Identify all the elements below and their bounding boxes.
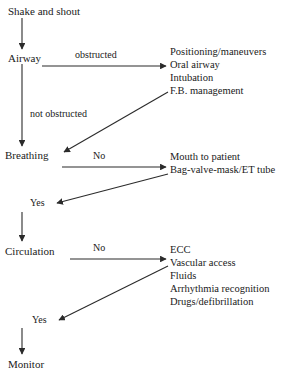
action-item: Arrhythmia recognition	[170, 282, 269, 295]
action-item: Mouth to patient	[170, 150, 275, 163]
edge-label-not-obstructed: not obstructed	[30, 108, 87, 119]
action-item: Fluids	[170, 269, 269, 282]
action-item: ECC	[170, 243, 269, 256]
edge-airway-actions-to-breathing	[64, 92, 168, 152]
node-monitor: Monitor	[8, 358, 44, 370]
flowchart-canvas: Shake and shout Airway Breathing Circula…	[0, 0, 295, 381]
action-list-circulation: ECC Vascular access Fluids Arrhythmia re…	[170, 243, 269, 308]
action-list-breathing: Mouth to patient Bag-valve-mask/ET tube	[170, 150, 275, 176]
edge-label-breathing-yes: Yes	[30, 197, 45, 208]
node-circulation: Circulation	[5, 245, 55, 257]
action-item: F.B. management	[170, 84, 266, 97]
edge-label-breathing-no: No	[93, 150, 105, 161]
edge-label-circulation-no: No	[93, 242, 105, 253]
action-item: Positioning/maneuvers	[170, 45, 266, 58]
node-shake-and-shout: Shake and shout	[8, 5, 80, 17]
action-item: Intubation	[170, 71, 266, 84]
node-breathing: Breathing	[5, 149, 48, 161]
action-item: Drugs/defibrillation	[170, 295, 269, 308]
action-list-airway: Positioning/maneuvers Oral airway Intuba…	[170, 45, 266, 97]
edge-breathing-actions-to-yes	[57, 174, 168, 203]
node-airway: Airway	[8, 52, 41, 64]
action-item: Bag-valve-mask/ET tube	[170, 163, 275, 176]
action-item: Vascular access	[170, 256, 269, 269]
action-item: Oral airway	[170, 58, 266, 71]
edge-circulation-actions-to-yes	[59, 266, 168, 320]
edge-label-circulation-yes: Yes	[32, 314, 47, 325]
edge-label-obstructed: obstructed	[75, 49, 117, 60]
